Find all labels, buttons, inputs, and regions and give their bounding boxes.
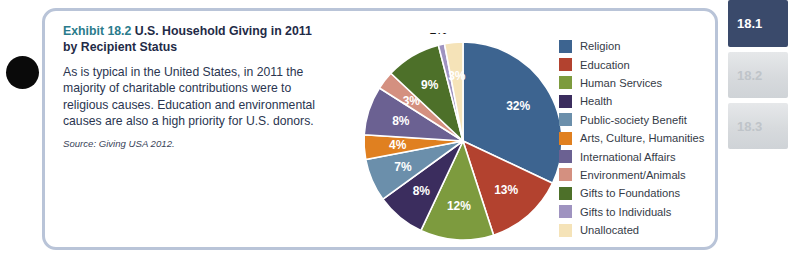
- legend-item[interactable]: Public-society Benefit: [559, 111, 719, 129]
- exhibit-description: As is typical in the United States, in 2…: [63, 64, 325, 130]
- legend-swatch-icon: [559, 95, 572, 108]
- legend-swatch-icon: [559, 132, 572, 145]
- pie-slice-label: 1%: [429, 33, 447, 37]
- legend-item-label: Education: [580, 59, 630, 71]
- exhibit-source: Source: Giving USA 2012.: [63, 138, 325, 149]
- legend-swatch-icon: [559, 168, 572, 181]
- exhibit-number: Exhibit 18.2: [63, 24, 131, 38]
- exhibit-panel: Exhibit 18.2 U.S. Household Giving in 20…: [42, 8, 718, 250]
- legend-swatch-icon: [559, 150, 572, 163]
- chart-legend: ReligionEducationHuman ServicesHealthPub…: [559, 37, 719, 239]
- legend-item-label: Unallocated: [580, 224, 639, 236]
- pie-chart-svg: 32%13%12%8%7%4%8%3%9%1%3%: [355, 33, 571, 249]
- legend-item-label: Environment/Animals: [580, 169, 686, 181]
- tab-18-2[interactable]: 18.2: [728, 52, 788, 98]
- pie-slice-label: 9%: [421, 78, 439, 92]
- legend-item[interactable]: Education: [559, 55, 719, 73]
- legend-item[interactable]: Unallocated: [559, 221, 719, 239]
- pie-slice-label: 32%: [506, 99, 530, 113]
- legend-swatch-icon: [559, 76, 572, 89]
- pie-slice-label: 8%: [392, 114, 410, 128]
- legend-item-label: Gifts to Individuals: [580, 206, 671, 218]
- chapter-tab-rail: 18.1 18.2 18.3: [728, 0, 788, 150]
- legend-swatch-icon: [559, 58, 572, 71]
- pie-slice-label: 13%: [494, 183, 518, 197]
- legend-item[interactable]: Health: [559, 92, 719, 110]
- legend-swatch-icon: [559, 113, 572, 126]
- legend-item-label: International Affairs: [580, 151, 676, 163]
- tab-18-2-label: 18.2: [737, 68, 762, 83]
- exhibit-text-block: Exhibit 18.2 U.S. Household Giving in 20…: [63, 23, 325, 149]
- legend-item-label: Religion: [580, 40, 620, 52]
- legend-swatch-icon: [559, 224, 572, 237]
- tab-18-3[interactable]: 18.3: [728, 103, 788, 149]
- tab-18-1-label: 18.1: [737, 16, 762, 31]
- legend-item[interactable]: Gifts to Foundations: [559, 184, 719, 202]
- legend-swatch-icon: [559, 187, 572, 200]
- legend-item[interactable]: Religion: [559, 37, 719, 55]
- tab-18-1[interactable]: 18.1: [728, 0, 788, 47]
- exhibit-screenshot: Exhibit 18.2 U.S. Household Giving in 20…: [0, 0, 788, 265]
- pie-slice-label: 12%: [447, 199, 471, 213]
- pie-slice-label: 8%: [413, 184, 431, 198]
- pie-slice-label: 4%: [389, 138, 407, 152]
- legend-swatch-icon: [559, 205, 572, 218]
- margin-bullet-icon: [6, 56, 39, 89]
- legend-item-label: Public-society Benefit: [580, 114, 687, 126]
- legend-item[interactable]: Gifts to Individuals: [559, 203, 719, 221]
- page-title: Exhibit 18.2 U.S. Household Giving in 20…: [63, 23, 325, 55]
- legend-item-label: Human Services: [580, 77, 662, 89]
- legend-item[interactable]: International Affairs: [559, 147, 719, 165]
- legend-item-label: Arts, Culture, Humanities: [580, 132, 704, 144]
- legend-item[interactable]: Human Services: [559, 74, 719, 92]
- legend-item[interactable]: Arts, Culture, Humanities: [559, 129, 719, 147]
- pie-slice-label: 7%: [394, 160, 412, 174]
- tab-18-3-label: 18.3: [737, 119, 762, 134]
- legend-item[interactable]: Environment/Animals: [559, 166, 719, 184]
- pie-slice-label: 3%: [448, 69, 466, 83]
- pie-chart: 32%13%12%8%7%4%8%3%9%1%3%: [355, 33, 571, 249]
- legend-item-label: Gifts to Foundations: [580, 187, 680, 199]
- legend-item-label: Health: [580, 95, 612, 107]
- legend-swatch-icon: [559, 40, 572, 53]
